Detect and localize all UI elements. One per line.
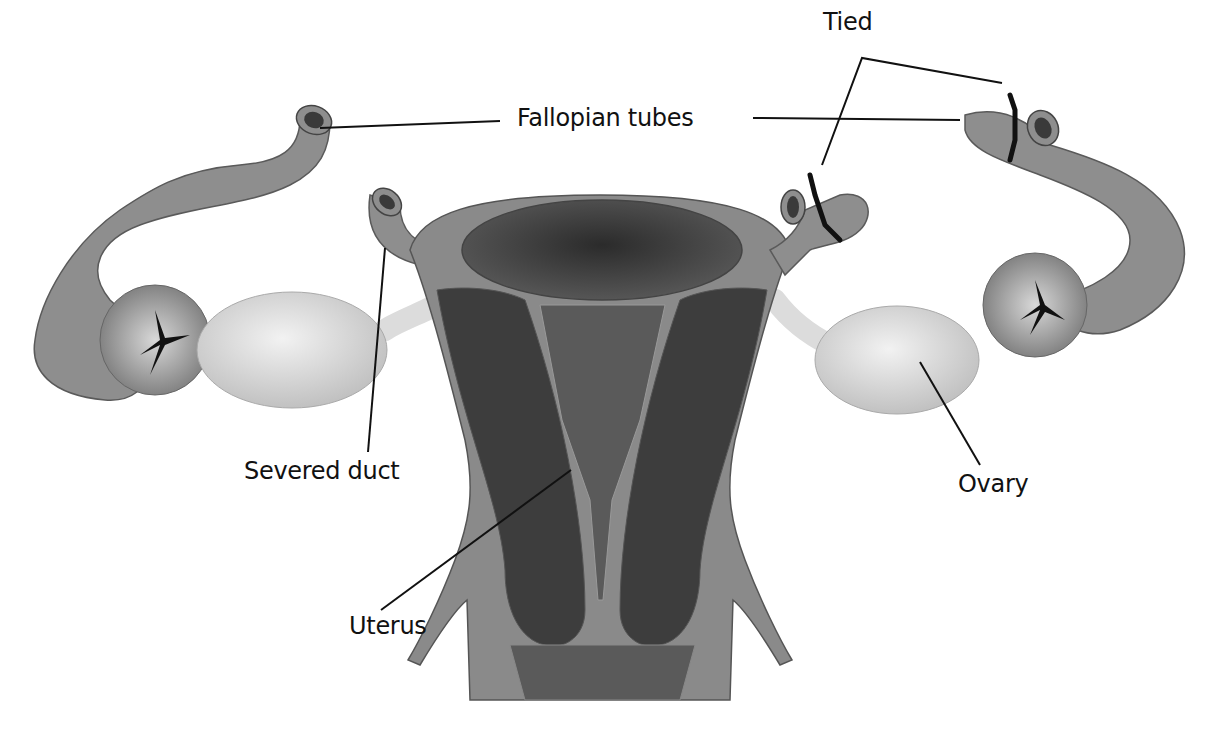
left-fimbriae	[100, 285, 210, 395]
uterus	[408, 195, 792, 700]
right-ovary	[775, 300, 979, 414]
label-severed-duct: Severed duct	[244, 457, 399, 485]
tied-leader	[822, 58, 1002, 165]
label-uterus: Uterus	[349, 612, 427, 640]
label-ovary: Ovary	[958, 470, 1028, 498]
label-tied: Tied	[823, 8, 872, 36]
label-fallopian-tubes: Fallopian tubes	[517, 104, 693, 132]
right-fimbriae	[983, 253, 1087, 357]
right-tied-stub	[770, 175, 868, 275]
fallopian-leader-right	[753, 118, 960, 120]
left-ovary	[197, 292, 445, 408]
fallopian-leader-left	[320, 121, 500, 128]
